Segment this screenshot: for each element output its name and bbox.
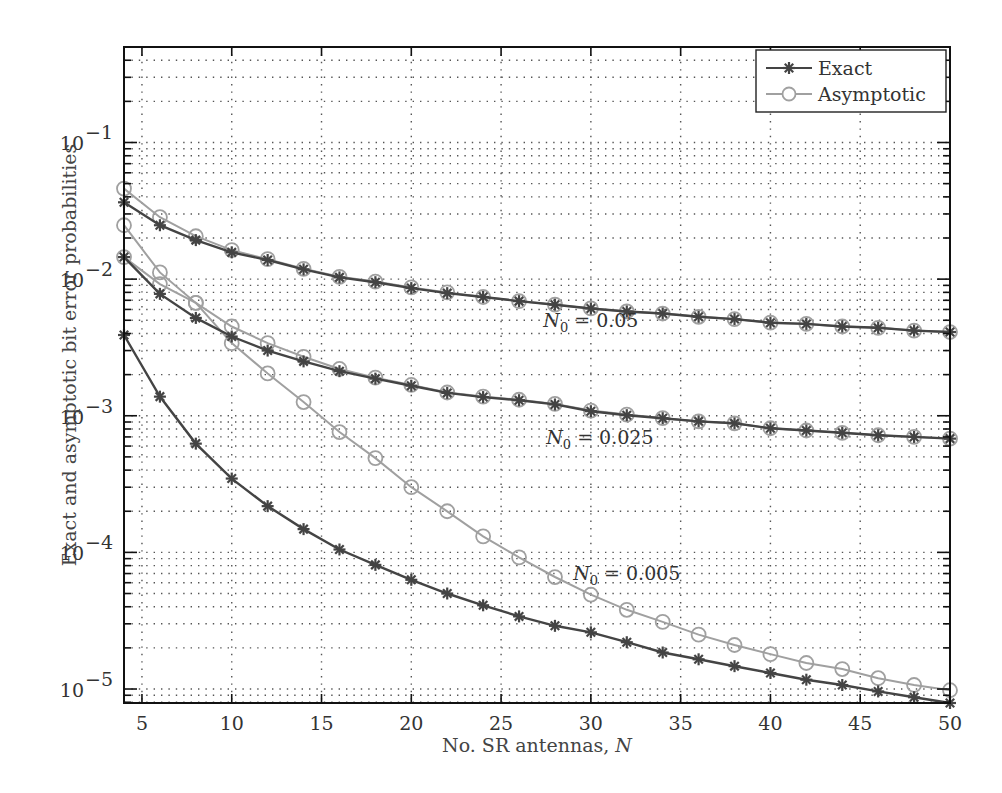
x-axis-label: No. SR antennas, N: [442, 734, 633, 756]
legend: ExactAsymptotic: [756, 50, 946, 112]
legend-label: Asymptotic: [817, 83, 926, 105]
chart: N0 = 0.05N0 = 0.025N0 = 0.005 5101520253…: [0, 0, 1002, 793]
x-tick-label: 40: [758, 712, 782, 734]
plot-frame: [124, 47, 950, 703]
x-tick-label: 20: [399, 712, 423, 734]
x-tick-label: 15: [309, 712, 333, 734]
y-tick-exponent: −5: [85, 668, 113, 690]
exact-series: [118, 196, 956, 338]
y-tick-label: 10: [60, 679, 84, 701]
data-series: [117, 182, 957, 709]
asymptotic-series: [117, 250, 957, 697]
n0-annotation: N0 = 0.025: [545, 426, 653, 452]
n0-annotation: N0 = 0.05: [542, 309, 638, 335]
axis-ticks: [124, 47, 950, 703]
asymptotic-series: [117, 182, 957, 339]
y-axis-label: Exact and asymptotic bit error probabili…: [58, 144, 80, 567]
x-tick-label: 30: [579, 712, 603, 734]
x-tick-label: 35: [669, 712, 693, 734]
exact-series: [118, 329, 956, 709]
x-tick-label: 5: [136, 712, 148, 734]
x-tick-label: 50: [938, 712, 962, 734]
n0-annotation: N0 = 0.005: [572, 562, 680, 588]
legend-label: Exact: [818, 57, 873, 79]
x-tick-label: 45: [848, 712, 872, 734]
x-tick-labels: 5101520253035404550: [136, 712, 962, 734]
y-tick-exponent: −3: [85, 395, 113, 417]
grid-lines: [124, 47, 950, 703]
x-tick-label: 25: [489, 712, 513, 734]
curve-annotations: N0 = 0.05N0 = 0.025N0 = 0.005: [542, 309, 680, 588]
y-tick-exponent: −4: [85, 531, 113, 553]
y-tick-exponent: −1: [85, 121, 113, 143]
x-tick-label: 10: [220, 712, 244, 734]
y-tick-exponent: −2: [85, 258, 113, 280]
